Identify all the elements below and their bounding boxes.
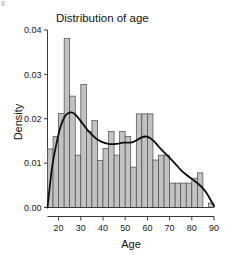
histogram-bar [197, 173, 203, 208]
chart-figure: Distribution of age Density Age 0.000.01… [0, 0, 246, 255]
histogram-bar [147, 114, 153, 208]
histogram-bar [109, 132, 115, 208]
histogram-bar [64, 38, 70, 207]
histogram-bar [170, 183, 176, 207]
histogram-bar [81, 85, 87, 208]
x-tick-label: 20 [54, 223, 64, 233]
histogram-bar [164, 155, 170, 207]
histogram-bar [142, 114, 148, 208]
x-tick-label: 30 [76, 223, 86, 233]
y-tick-label: 0.00 [24, 203, 42, 213]
histogram-bar [97, 160, 103, 207]
x-tick-label: 90 [209, 223, 219, 233]
x-tick-label: 80 [187, 223, 197, 233]
x-tick-label: 50 [120, 223, 130, 233]
histogram-bar [153, 160, 159, 207]
histogram-bar [125, 137, 131, 208]
histogram-bar [75, 155, 81, 207]
y-axis-label: Density [12, 103, 24, 140]
y-tick-label: 0.03 [24, 70, 42, 80]
distribution-of-age-histogram: Distribution of age Density Age 0.000.01… [0, 0, 246, 255]
histogram-bar [181, 183, 187, 207]
corner-artifact [1, 1, 5, 6]
x-tick-label: 70 [165, 223, 175, 233]
x-axis-label: Age [121, 238, 141, 250]
histogram-bar [103, 148, 109, 207]
histogram-bar [159, 155, 165, 207]
x-tick-label: 40 [98, 223, 108, 233]
histogram-bar [114, 155, 120, 207]
histogram-bar [131, 167, 137, 207]
y-tick-label: 0.04 [24, 25, 42, 35]
histogram-bar [136, 114, 142, 208]
histogram-bar [186, 183, 192, 207]
histogram-bar [175, 183, 181, 207]
y-tick-label: 0.01 [24, 158, 42, 168]
histogram-bar [86, 132, 92, 208]
y-tick-label: 0.02 [24, 114, 42, 124]
histogram-bar [92, 121, 98, 208]
x-tick-label: 60 [142, 223, 152, 233]
page-title: Distribution of age [56, 12, 149, 24]
